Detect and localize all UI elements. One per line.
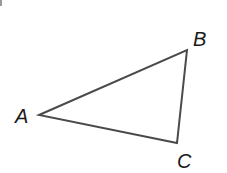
vertex-label-a: A [14,105,28,127]
triangle-abc [39,50,187,143]
vertex-label-b: B [193,28,206,50]
triangle-diagram: A B C [0,0,227,173]
vertex-label-c: C [177,150,192,172]
